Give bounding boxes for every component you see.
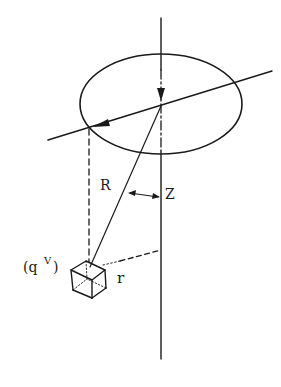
volume-element-cube <box>71 261 106 298</box>
geometry-diagram: R Z r (q V ) <box>0 0 281 387</box>
label-source-close: ) <box>53 259 58 275</box>
inclined-axis-line <box>48 71 272 140</box>
left-arrowhead-icon <box>93 119 110 127</box>
down-arrowhead-icon <box>157 88 165 101</box>
distance-r-dashed <box>120 250 161 261</box>
Z-arrow-left-head-icon <box>128 190 136 196</box>
label-source-sup: V <box>43 255 52 266</box>
distance-r-dotted <box>103 261 120 265</box>
label-Z: Z <box>165 186 175 202</box>
Z-arrow-right-head-icon <box>152 193 160 199</box>
label-R: R <box>100 177 111 193</box>
label-source-q: (q <box>23 259 37 275</box>
label-r: r <box>117 269 125 287</box>
